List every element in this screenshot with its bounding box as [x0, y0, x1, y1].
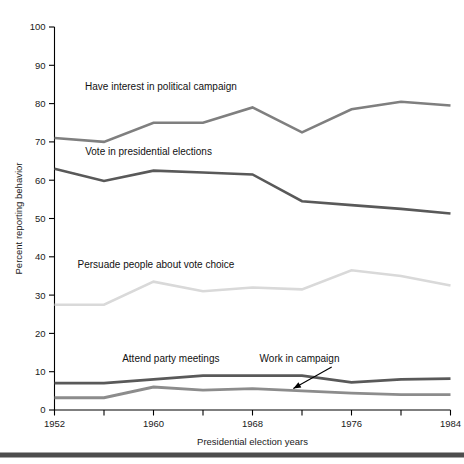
y-tick-label-90: 90 — [35, 60, 46, 71]
y-tick-label-60: 60 — [35, 175, 46, 186]
series-line-1 — [55, 169, 451, 214]
series-line-4 — [55, 387, 451, 398]
x-tick-label-1976: 1976 — [341, 418, 362, 429]
x-tick-label-1984: 1984 — [440, 418, 461, 429]
series-label-1: Vote in presidential elections — [85, 146, 212, 157]
series-label-2: Persuade people about vote choice — [78, 259, 235, 270]
y-tick-label-70: 70 — [35, 136, 46, 147]
y-tick-label-100: 100 — [30, 21, 46, 32]
x-tick-label-1952: 1952 — [44, 418, 65, 429]
y-tick-label-0: 0 — [40, 404, 45, 415]
figure-container: 0102030405060708090100195219601968197619… — [0, 0, 464, 464]
y-tick-label-10: 10 — [35, 366, 46, 377]
x-tick-label-1968: 1968 — [242, 418, 263, 429]
series-label-3: Attend party meetings — [122, 353, 219, 364]
y-tick-label-30: 30 — [35, 290, 46, 301]
y-tick-label-80: 80 — [35, 98, 46, 109]
series-line-0 — [55, 102, 451, 142]
y-axis-title: Percent reporting behavior — [13, 163, 24, 275]
series-line-2 — [55, 270, 451, 304]
series-label-0: Have interest in political campaign — [85, 81, 237, 92]
y-tick-label-20: 20 — [35, 328, 46, 339]
y-tick-label-50: 50 — [35, 213, 46, 224]
series-line-3 — [55, 376, 451, 384]
x-axis-title: Presidential election years — [197, 436, 308, 447]
x-tick-label-1960: 1960 — [143, 418, 164, 429]
line-chart: 0102030405060708090100195219601968197619… — [0, 0, 464, 464]
work-in-campaign-arrow-head — [293, 382, 301, 388]
series-label-4: Work in campaign — [260, 353, 340, 364]
y-tick-label-40: 40 — [35, 251, 46, 262]
